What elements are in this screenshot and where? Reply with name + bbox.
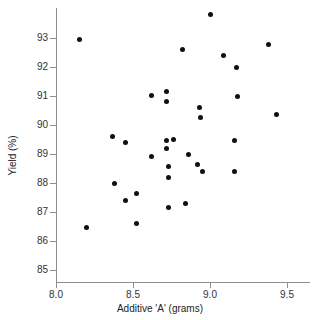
x-axis-tick <box>287 283 288 288</box>
data-point <box>274 112 279 117</box>
data-point <box>134 221 139 226</box>
x-axis-title: Additive 'A' (grams) <box>0 303 320 314</box>
x-axis-line <box>56 282 310 283</box>
data-point <box>77 37 82 42</box>
y-axis-tick-label: 92 <box>8 62 48 72</box>
y-axis-tick-label: 85 <box>8 265 48 275</box>
data-point <box>166 205 171 210</box>
y-axis-title: Yield (%) <box>7 106 18 206</box>
y-axis-line <box>56 8 57 283</box>
data-point <box>197 105 202 110</box>
data-point <box>166 164 171 169</box>
y-axis-tick-label: 86 <box>8 236 48 246</box>
y-axis-tick <box>50 38 56 39</box>
x-axis-tick-label: 9.5 <box>267 290 307 300</box>
data-point <box>164 99 169 104</box>
data-point <box>149 93 154 98</box>
data-point <box>235 94 240 99</box>
plot-area: 858687888990919293 8.08.59.09.5 Additive… <box>0 0 320 320</box>
x-axis-tick-label: 9.0 <box>190 290 230 300</box>
y-axis-tick-label: 93 <box>8 33 48 43</box>
data-point <box>164 138 169 143</box>
data-point <box>221 53 226 58</box>
data-point <box>208 12 213 17</box>
data-point <box>123 140 128 145</box>
data-point <box>195 162 200 167</box>
y-axis-tick <box>50 96 56 97</box>
data-point <box>166 175 171 180</box>
y-axis-tick <box>50 241 56 242</box>
x-axis-tick-label: 8.0 <box>36 290 76 300</box>
data-point <box>183 201 188 206</box>
scatter-plot-figure: 858687888990919293 8.08.59.09.5 Additive… <box>0 0 320 320</box>
data-point <box>110 134 115 139</box>
data-point <box>123 198 128 203</box>
data-point <box>234 65 239 70</box>
y-axis-tick <box>50 67 56 68</box>
data-point <box>164 146 169 151</box>
x-axis-tick <box>133 283 134 288</box>
y-axis-tick-label: 91 <box>8 91 48 101</box>
data-point <box>232 169 237 174</box>
x-axis-tick <box>210 283 211 288</box>
data-point <box>180 47 185 52</box>
y-axis-tick <box>50 154 56 155</box>
data-point <box>149 154 154 159</box>
data-point <box>232 138 237 143</box>
data-point <box>171 137 176 142</box>
data-point <box>84 225 89 230</box>
y-axis-tick-label: 87 <box>8 207 48 217</box>
x-axis-tick <box>56 283 57 288</box>
data-point <box>134 191 139 196</box>
data-point <box>186 152 191 157</box>
x-axis-tick-label: 8.5 <box>113 290 153 300</box>
data-point <box>112 181 117 186</box>
data-point <box>164 89 169 94</box>
y-axis-tick <box>50 183 56 184</box>
data-point <box>200 169 205 174</box>
y-axis-tick <box>50 125 56 126</box>
y-axis-tick <box>50 270 56 271</box>
data-point <box>266 42 271 47</box>
y-axis-tick <box>50 212 56 213</box>
data-point <box>198 115 203 120</box>
